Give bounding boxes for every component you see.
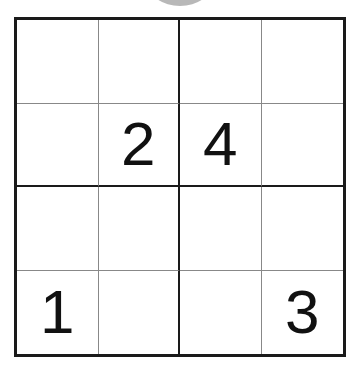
- cell-r2-c4[interactable]: [262, 104, 344, 188]
- cell-r3-c2[interactable]: [99, 187, 181, 271]
- cell-r4-c3[interactable]: [180, 271, 262, 355]
- cell-r2-c1[interactable]: [17, 104, 99, 188]
- sudoku-board: 2 4 1 3: [14, 17, 346, 357]
- cell-r3-c1[interactable]: [17, 187, 99, 271]
- cell-r4-c1: 1: [17, 271, 99, 355]
- cell-r4-c2[interactable]: [99, 271, 181, 355]
- cell-r3-c3[interactable]: [180, 187, 262, 271]
- cell-r1-c2[interactable]: [99, 20, 181, 104]
- cell-r1-c4[interactable]: [262, 20, 344, 104]
- cell-r4-c4: 3: [262, 271, 344, 355]
- cell-r2-c2: 2: [99, 104, 181, 188]
- cell-r1-c1[interactable]: [17, 20, 99, 104]
- top-circle-decoration: [148, 0, 212, 6]
- cell-r2-c3: 4: [180, 104, 262, 188]
- cell-r3-c4[interactable]: [262, 187, 344, 271]
- cell-r1-c3[interactable]: [180, 20, 262, 104]
